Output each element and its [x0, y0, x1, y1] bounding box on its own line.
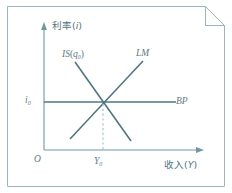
figure-container: 利率(i) IS(q0) LM BP i0 O Y0 收入(Y) — [0, 0, 232, 193]
isl-lm-bp-diagram — [0, 0, 232, 193]
page-border — [8, 7, 225, 187]
